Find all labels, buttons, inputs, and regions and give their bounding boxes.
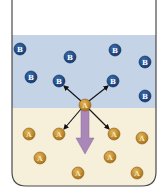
particle-label: A: [133, 169, 140, 178]
a-particle: A: [72, 167, 84, 179]
particle-label: A: [138, 134, 145, 143]
b-particle: B: [53, 75, 65, 87]
particle-label: B: [112, 46, 118, 55]
particle-label: B: [56, 77, 62, 86]
a-particle: A: [23, 128, 35, 140]
a-particle: A: [34, 152, 46, 164]
b-particle: B: [107, 75, 119, 87]
b-particle: B: [64, 51, 76, 63]
particle-label: B: [142, 92, 148, 101]
particle-label: A: [110, 130, 117, 139]
particle-label: A: [106, 153, 113, 162]
beaker-diagram: BBBBBBBB AAAAAAAA A: [0, 0, 166, 195]
a-particle: A: [53, 128, 65, 140]
particle-label: B: [28, 73, 34, 82]
b-particle: B: [14, 43, 26, 55]
a-particle: A: [108, 128, 120, 140]
particle-label: A: [36, 154, 43, 163]
particle-label: B: [67, 53, 73, 62]
particle-label: B: [110, 77, 116, 86]
b-particle: B: [139, 56, 151, 68]
particle-label: A: [74, 169, 81, 178]
particle-label: A: [81, 101, 88, 110]
a-particle: A: [136, 132, 148, 144]
a-particle: A: [79, 99, 91, 111]
particle-label: A: [55, 130, 62, 139]
b-particle: B: [109, 44, 121, 56]
a-particle: A: [131, 167, 143, 179]
a-particle: A: [104, 151, 116, 163]
particle-label: B: [17, 45, 23, 54]
b-particle: B: [139, 90, 151, 102]
central-a-particle: A: [79, 99, 91, 111]
b-particle: B: [25, 71, 37, 83]
particle-label: A: [25, 130, 32, 139]
particle-label: B: [142, 58, 148, 67]
